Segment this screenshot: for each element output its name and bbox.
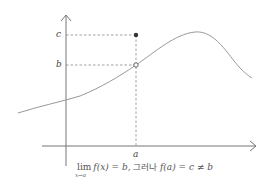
lim-subscript: x→a (75, 173, 86, 179)
formula-conjunction: 그러나 (131, 162, 160, 172)
function-curve (18, 32, 252, 113)
label-b: b (56, 60, 62, 69)
limit-diagram: c b a lim x→a f(x) = b, 그러나 f(a) = c ≠ b (0, 0, 272, 187)
label-c: c (56, 30, 61, 39)
formula-part1: f(x) = b, (93, 162, 130, 172)
formula-part2: f(a) = c ≠ b (160, 162, 213, 172)
filled-point-icon (134, 33, 138, 37)
open-point-icon (134, 63, 138, 67)
label-a: a (133, 150, 138, 159)
limit-formula: lim x→a f(x) = b, 그러나 f(a) = c ≠ b (77, 163, 213, 172)
lim-operator: lim x→a (77, 163, 91, 172)
lim-text: lim (77, 162, 91, 172)
